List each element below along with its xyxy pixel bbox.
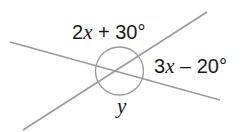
intersecting-lines-diagram: 2x + 30° 3x – 20° y [0,0,245,132]
angle-arc [96,47,144,95]
right-angle-label: 3x – 20° [154,54,227,78]
top-angle-label: 2x + 30° [72,20,146,44]
bottom-angle-label: y [115,94,127,118]
